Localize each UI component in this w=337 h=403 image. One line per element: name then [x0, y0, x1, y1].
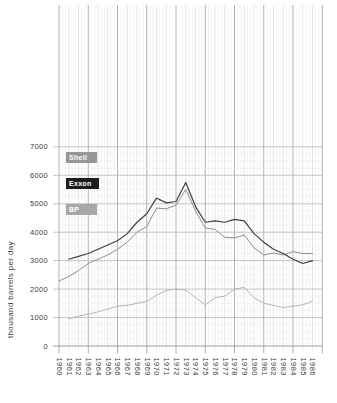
x-tick-label: 1977 — [221, 358, 230, 376]
x-tick-label: 1984 — [289, 358, 298, 376]
x-tick-label: 1981 — [260, 358, 269, 376]
y-tick-label: 4000 — [30, 228, 48, 237]
x-tick-label: 1982 — [269, 358, 278, 376]
x-tick-label: 1963 — [84, 358, 93, 376]
x-tick-label: 1975 — [201, 358, 210, 376]
y-tick-label: 7000 — [30, 142, 48, 151]
x-tick-label: 1967 — [123, 358, 132, 376]
x-tick-label: 1971 — [162, 358, 171, 376]
y-tick-label: 0 — [44, 342, 48, 351]
legend-chip-exxon: Exxon — [66, 178, 99, 189]
plot-area: 1960196119621963196419651966196719681969… — [0, 0, 337, 403]
legend-label-shell: Shell — [69, 154, 87, 161]
x-tick-label: 1960 — [55, 358, 64, 376]
x-tick-label: 1983 — [279, 358, 288, 376]
x-tick-label: 1978 — [230, 358, 239, 376]
legend-chip-bp: BP — [66, 204, 97, 215]
x-tick-label: 1986 — [308, 358, 317, 376]
x-tick-label: 1964 — [94, 358, 103, 376]
x-tick-label: 1979 — [240, 358, 249, 376]
x-tick-label: 1974 — [191, 358, 200, 376]
y-tick-label: 1000 — [30, 313, 48, 322]
legend-label-exxon: Exxon — [69, 180, 92, 187]
series-line-exxon — [69, 182, 313, 263]
x-tick-label: 1972 — [172, 358, 181, 376]
x-tick-label: 1968 — [133, 358, 142, 376]
x-tick-label: 1969 — [143, 358, 152, 376]
x-tick-label: 1965 — [104, 358, 113, 376]
x-tick-label: 1985 — [299, 358, 308, 376]
x-tick-label: 1970 — [152, 358, 161, 376]
x-tick-label: 1961 — [65, 358, 74, 376]
x-tick-label: 1976 — [211, 358, 220, 376]
x-tick-label: 1980 — [250, 358, 259, 376]
x-tick-label: 1962 — [74, 358, 83, 376]
x-tick-label: 1973 — [182, 358, 191, 376]
x-tick-label: 1966 — [113, 358, 122, 376]
line-chart: 1960196119621963196419651966196719681969… — [0, 0, 337, 403]
y-tick-label: 5000 — [30, 199, 48, 208]
y-tick-label: 2000 — [30, 285, 48, 294]
y-tick-label: 3000 — [30, 256, 48, 265]
y-tick-label: 6000 — [30, 171, 48, 180]
legend-label-bp: BP — [69, 206, 79, 213]
legend-chip-shell: Shell — [66, 152, 97, 163]
y-axis-title: thousand barrels per day — [6, 241, 15, 338]
